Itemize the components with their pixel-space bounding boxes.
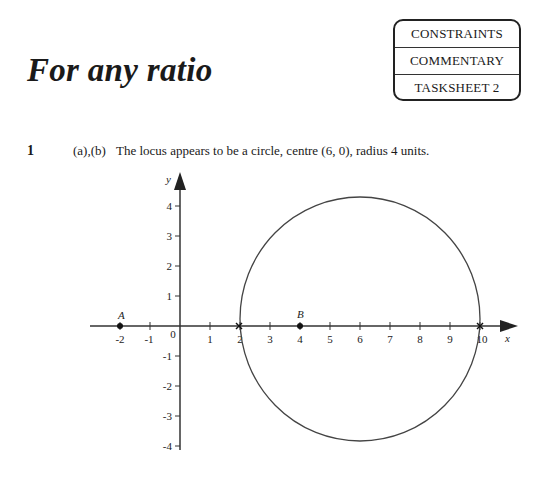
svg-text:4: 4 xyxy=(167,200,173,212)
svg-text:-1: -1 xyxy=(144,333,153,345)
svg-text:2: 2 xyxy=(167,260,173,272)
svg-text:4: 4 xyxy=(297,333,303,345)
svg-text:3: 3 xyxy=(167,230,173,242)
svg-text:7: 7 xyxy=(387,333,393,345)
point-b xyxy=(297,323,303,329)
point-a-label: A xyxy=(117,309,125,321)
x-tick-labels: -2 -1 0 1 2 3 4 5 6 7 8 9 10 xyxy=(115,328,488,345)
y-axis-arrow-icon xyxy=(174,172,186,190)
svg-text:-2: -2 xyxy=(163,380,172,392)
svg-text:-3: -3 xyxy=(163,410,173,422)
svg-text:0: 0 xyxy=(170,328,176,340)
x-axis-label: x xyxy=(504,332,510,344)
locus-circle xyxy=(240,197,480,441)
svg-text:1: 1 xyxy=(207,333,213,345)
svg-text:-1: -1 xyxy=(163,350,172,362)
svg-text:-4: -4 xyxy=(163,440,173,452)
svg-text:5: 5 xyxy=(327,333,333,345)
svg-text:1: 1 xyxy=(167,290,173,302)
y-axis-label: y xyxy=(165,173,171,185)
svg-text:9: 9 xyxy=(447,333,453,345)
locus-graph: x y -2 -1 0 1 2 3 4 5 6 7 8 9 10 4 3 2 1 xyxy=(0,0,544,490)
svg-text:3: 3 xyxy=(267,333,273,345)
svg-text:8: 8 xyxy=(417,333,423,345)
svg-text:-2: -2 xyxy=(115,333,124,345)
point-a xyxy=(117,323,123,329)
point-b-label: B xyxy=(297,308,304,320)
svg-text:6: 6 xyxy=(357,333,363,345)
x-axis-arrow-icon xyxy=(500,320,518,332)
